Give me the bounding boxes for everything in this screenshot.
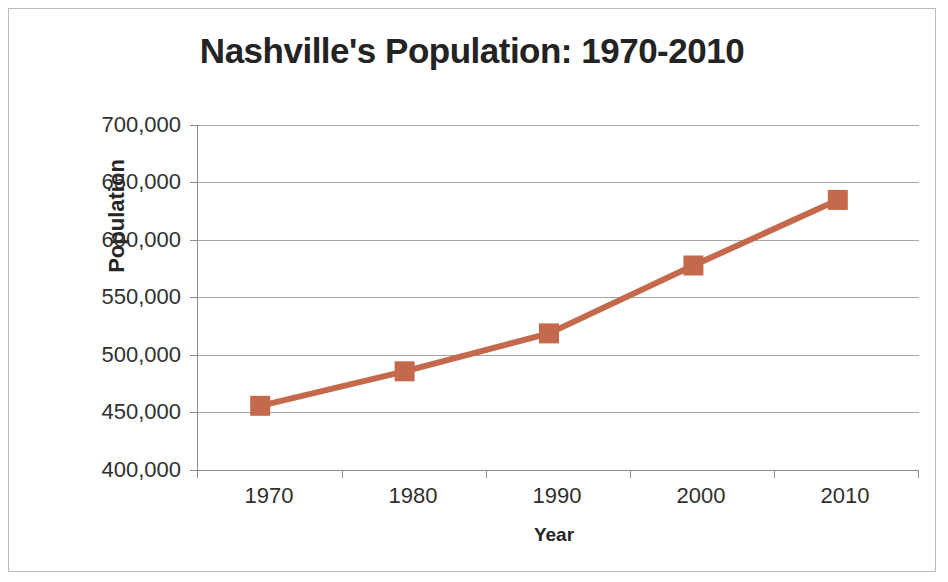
- y-tick-label-450000: 450,000: [61, 399, 181, 425]
- y-tick-label-600000: 600,000: [61, 227, 181, 253]
- x-tick-5: [918, 470, 919, 478]
- x-tick-3: [630, 470, 631, 478]
- y-tick-label-group: 700,000 650,000 600,000 550,000 500,000 …: [57, 9, 181, 571]
- y-tick-700000: [190, 125, 198, 126]
- x-axis-spine: [197, 470, 919, 471]
- gridline-450000: [197, 412, 919, 413]
- x-tick-label-1990: 1990: [487, 483, 627, 509]
- plot-area: [197, 125, 919, 470]
- y-tick-label-500000: 500,000: [61, 342, 181, 368]
- x-tick-label-2000: 2000: [631, 483, 771, 509]
- gridline-500000: [197, 355, 919, 356]
- y-tick-650000: [190, 182, 198, 183]
- gridline-650000: [197, 182, 919, 183]
- y-tick-label-550000: 550,000: [61, 284, 181, 310]
- y-tick-550000: [190, 297, 198, 298]
- gridline-700000: [197, 125, 919, 126]
- gridline-600000: [197, 240, 919, 241]
- y-axis-spine: [197, 125, 198, 471]
- x-tick-label-1980: 1980: [343, 483, 483, 509]
- gridline-550000: [197, 297, 919, 298]
- y-tick-500000: [190, 355, 198, 356]
- x-tick-4: [774, 470, 775, 478]
- x-tick-label-1970: 1970: [199, 483, 339, 509]
- y-tick-600000: [190, 240, 198, 241]
- x-tick-2: [486, 470, 487, 478]
- x-tick-0: [197, 470, 198, 478]
- y-tick-label-400000: 400,000: [61, 457, 181, 483]
- x-tick-1: [342, 470, 343, 478]
- x-tick-label-2010: 2010: [775, 483, 915, 509]
- y-tick-450000: [190, 412, 198, 413]
- chart-figure-frame: Nashville's Population: 1970-2010 Popula…: [8, 8, 936, 572]
- y-tick-label-650000: 650,000: [61, 169, 181, 195]
- y-tick-label-700000: 700,000: [61, 112, 181, 138]
- x-axis-title: Year: [189, 524, 919, 546]
